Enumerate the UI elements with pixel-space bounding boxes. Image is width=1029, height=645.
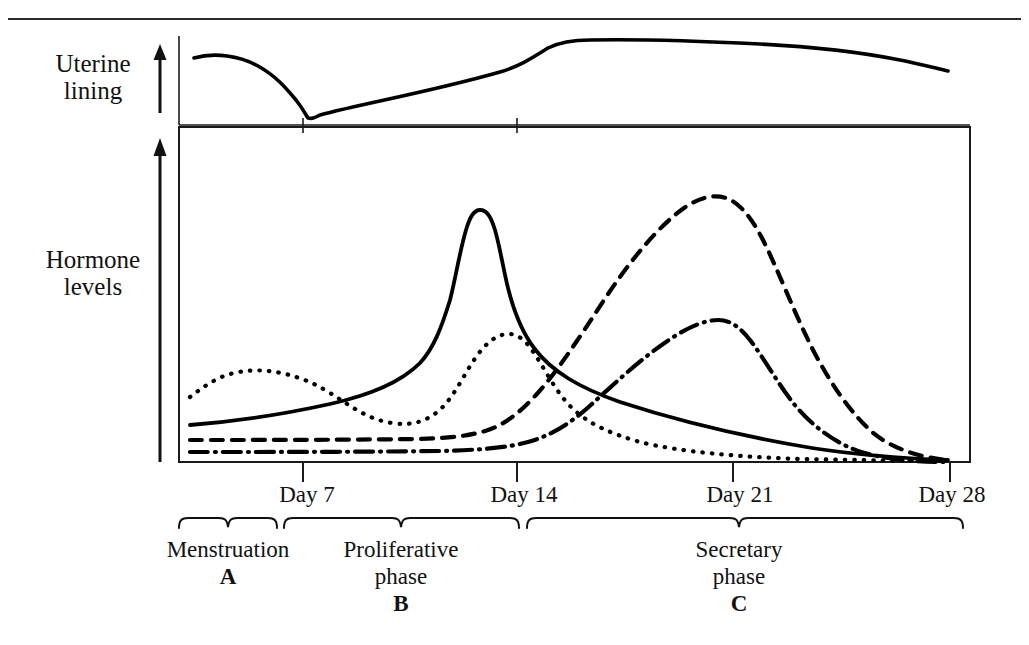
uterine-lining-curve [194, 40, 948, 119]
brace-menstruation [179, 518, 277, 528]
uterine-lining-label-line2: lining [64, 77, 123, 104]
hormone-levels-label-line2: levels [64, 273, 122, 300]
x-label-day7: Day 7 [279, 482, 335, 507]
hormone-levels-label-line1: Hormone [46, 246, 140, 273]
figure-svg: Uterine lining Hormone levels [0, 0, 1029, 645]
cut-off-text-remnant [248, 0, 252, 14]
brace-proliferative [284, 518, 519, 528]
phase-brackets: Menstruation A Proliferative phase B Sec… [167, 518, 963, 616]
x-label-day14: Day 14 [490, 482, 558, 507]
curve-progesterone-dashed [190, 196, 946, 460]
phase-label-secretary-line1: Secretary [696, 537, 783, 562]
phase-label-proliferative-line1: Proliferative [344, 537, 459, 562]
phase-letter-b: B [393, 591, 408, 616]
curve-lh-solid [190, 210, 948, 460]
x-axis-tick-labels: Day 7 Day 14 Day 21 Day 28 [279, 482, 985, 507]
uterine-y-axis-arrow [154, 44, 167, 113]
phase-letter-c: C [731, 591, 748, 616]
x-label-day21: Day 21 [706, 482, 773, 507]
phase-label-menstruation: Menstruation [167, 537, 290, 562]
uterine-lining-panel: Uterine lining [56, 36, 970, 133]
phase-label-proliferative-line2: phase [375, 564, 427, 589]
phase-letter-a: A [220, 564, 237, 589]
phase-label-secretary-line2: phase [713, 564, 765, 589]
x-label-day28: Day 28 [918, 482, 985, 507]
hormone-y-axis-arrow [154, 138, 167, 462]
uterine-lining-label-line1: Uterine [56, 50, 131, 77]
brace-secretary [527, 518, 963, 528]
hormone-levels-panel: Hormone levels [46, 127, 970, 482]
